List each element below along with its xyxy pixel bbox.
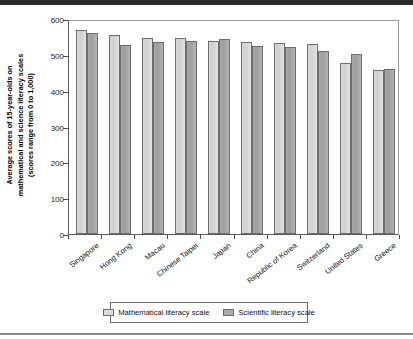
legend-entry-mathematical: Mathematical literacy scale (103, 308, 209, 317)
x-axis-label: Hong Kong (98, 241, 133, 271)
bar-scientific (120, 45, 131, 234)
bar-group (109, 21, 131, 234)
x-axis-tick-mark (267, 235, 268, 239)
x-axis-tick-mark (167, 235, 168, 239)
x-axis-tick-mark (234, 235, 235, 239)
x-axis-label: Japan (211, 241, 233, 261)
bar-mathematical (76, 30, 87, 234)
bar-group (373, 21, 395, 234)
y-axis-tick-label: 500 (34, 51, 64, 60)
bar-mathematical (373, 70, 384, 234)
bar-mathematical (241, 42, 252, 234)
math-swatch-icon (103, 309, 114, 316)
legend-label-mathematical: Mathematical literacy scale (118, 308, 209, 317)
bar-mathematical (340, 63, 351, 234)
bar-mathematical (274, 43, 285, 234)
sci-swatch-icon (223, 309, 234, 316)
legend-entry-scientific: Scientific literacy scale (223, 308, 314, 317)
bar-mathematical (175, 38, 186, 234)
x-axis-tick-mark (399, 235, 400, 239)
x-axis-tick-mark (333, 235, 334, 239)
y-axis-tick-label: 600 (34, 16, 64, 25)
bar-group (274, 21, 296, 234)
bar-scientific (252, 46, 263, 234)
bar-scientific (384, 69, 395, 234)
bar-mathematical (208, 41, 219, 234)
legend-label-scientific: Scientific literacy scale (238, 308, 314, 317)
top-divider-rule (0, 0, 413, 5)
bar-group (175, 21, 197, 234)
bar-group (76, 21, 98, 234)
x-axis-tick-mark (300, 235, 301, 239)
bar-scientific (186, 41, 197, 234)
chart-figure: Average scores of 15-year-olds on mathem… (0, 0, 413, 339)
bar-group (142, 21, 164, 234)
bottom-divider-rule (0, 333, 413, 335)
y-axis-title-line-1: Average scores of 15-year-olds on (5, 54, 16, 196)
bar-group (241, 21, 263, 234)
y-axis-tick-label: 100 (34, 195, 64, 204)
x-axis-tick-mark (200, 235, 201, 239)
y-axis-tick-label: 400 (34, 87, 64, 96)
bar-mathematical (109, 35, 120, 234)
x-axis-tick-mark (366, 235, 367, 239)
y-axis-title-line-2: mathematical and science literacy scales (16, 54, 27, 196)
bar-scientific (285, 47, 296, 234)
x-axis-label: Greece (373, 241, 398, 263)
bar-series-container (69, 21, 398, 234)
x-axis-label: China (244, 241, 265, 260)
chart-legend: Mathematical literacy scale Scientific l… (110, 302, 308, 323)
x-axis-tick-mark (101, 235, 102, 239)
bar-mathematical (307, 44, 318, 234)
bar-scientific (318, 51, 329, 234)
bar-group (208, 21, 230, 234)
x-axis-tick-mark (68, 235, 69, 239)
y-axis-tick-label: 200 (34, 159, 64, 168)
bar-scientific (351, 54, 362, 234)
bar-group (340, 21, 362, 234)
y-axis-tick-label: 0 (34, 231, 64, 240)
plot-area (68, 20, 399, 235)
bar-scientific (153, 42, 164, 234)
x-axis-label: Macau (143, 241, 167, 262)
y-axis-tick-label: 300 (34, 123, 64, 132)
bar-scientific (219, 39, 230, 234)
bar-scientific (87, 33, 98, 234)
bar-group (307, 21, 329, 234)
bar-mathematical (142, 38, 153, 234)
x-axis-label: Singapore (67, 241, 100, 269)
x-axis-tick-mark (134, 235, 135, 239)
